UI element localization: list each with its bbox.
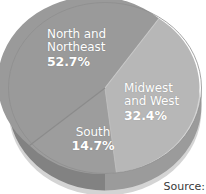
pie-chart-screenshot: North and Northeast 52.7% Midwest and We… [0,0,205,194]
pie-chart-graphic [0,0,205,194]
source-note: Source: [164,180,206,193]
